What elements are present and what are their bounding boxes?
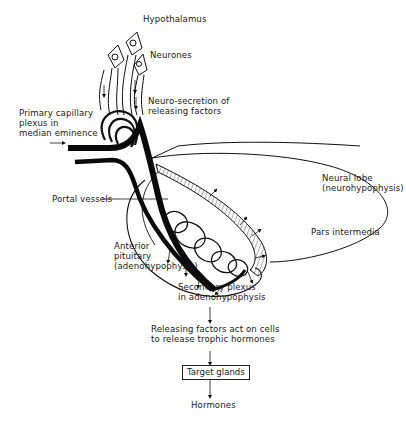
- target-glands-box: Target glands: [182, 365, 250, 380]
- label-anterior-1: Anterior: [114, 241, 150, 252]
- label-secondary-plexus-2: in adenohypophysis: [178, 292, 266, 303]
- diagram-canvas: Hypothalamus Neurones Neuro-secretion of…: [0, 0, 406, 421]
- label-hypothalamus: Hypothalamus: [143, 14, 207, 25]
- label-primary-plexus-2: plexus in: [19, 118, 58, 129]
- neurone-cells: [100, 32, 147, 115]
- label-portal-vessels: Portal vessels: [52, 194, 112, 205]
- neural-lobe-outline: [152, 153, 388, 262]
- pituitary-portal-illustration: [0, 0, 406, 421]
- label-neural-lobe-2: (neurohypophysis): [322, 183, 404, 194]
- label-neurosecretion-1: Neuro-secretion of: [148, 96, 229, 107]
- label-primary-plexus-3: median eminence: [19, 128, 98, 139]
- label-neural-lobe-1: Neural lobe: [322, 173, 373, 184]
- label-anterior-3: (adenohypophysis): [114, 261, 198, 272]
- flow-step-releasing-1: Releasing factors act on cells: [151, 324, 280, 335]
- label-pars-intermedia: Pars intermedia: [311, 227, 380, 238]
- label-neurosecretion-2: releasing factors: [148, 106, 221, 117]
- label-anterior-2: pituitary: [114, 251, 151, 262]
- flow-step-releasing-2: to release trophic hormones: [151, 334, 275, 345]
- label-neurones: Neurones: [150, 50, 192, 61]
- label-primary-plexus-1: Primary capillary: [19, 108, 93, 119]
- stalk-top-line: [152, 142, 360, 158]
- label-secondary-plexus-1: Secondary plexus: [178, 282, 256, 293]
- anterior-pituitary-outline: [127, 180, 262, 296]
- label-hormones: Hormones: [191, 400, 236, 411]
